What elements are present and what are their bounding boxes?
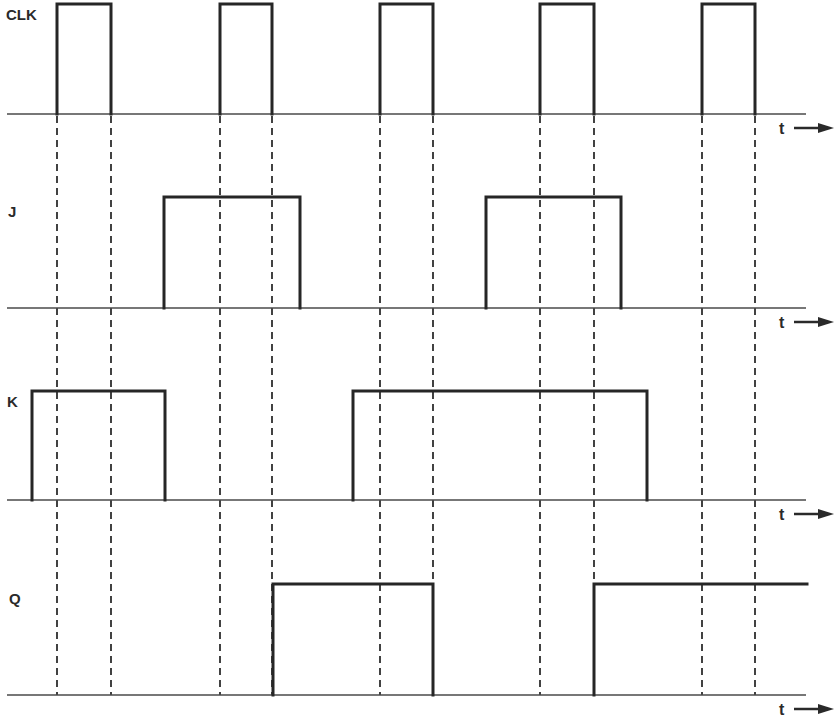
clk-time-arrow-icon [818,123,834,133]
q-pulse-1 [594,584,807,695]
clk-pulse-3 [540,4,594,114]
time-axis-markers: tttt [779,120,834,718]
clk-pulse-1 [220,4,272,114]
clk-pulse-0 [57,4,111,114]
j-time-arrow-icon [818,317,834,327]
j-signal-label: J [8,203,16,220]
clk-time-label: t [779,120,785,137]
q-time-label: t [779,701,785,718]
clk-pulse-4 [702,4,755,114]
j-pulse-0 [164,197,300,308]
q-time-arrow-icon [818,704,834,714]
signal-baselines [7,114,806,695]
clock-edge-guides [57,116,755,695]
signal-waveforms [32,4,807,695]
k-signal-label: K [7,393,18,410]
j-pulse-1 [486,197,621,308]
k-time-arrow-icon [818,509,834,519]
clk-pulse-2 [380,4,433,114]
k-pulse-0 [32,391,165,500]
k-time-label: t [779,506,785,523]
timing-diagram: CLKJKQ tttt [0,0,839,722]
q-signal-label: Q [9,590,21,607]
j-time-label: t [779,314,785,331]
q-pulse-0 [273,584,433,695]
k-pulse-1 [353,391,647,500]
clk-signal-label: CLK [6,6,37,23]
signal-labels: CLKJKQ [6,6,37,607]
